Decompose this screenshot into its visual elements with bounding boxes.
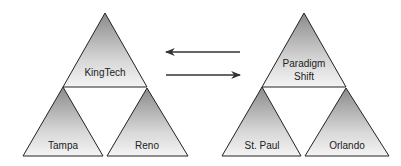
- root-domain-label-line1: Paradigm: [283, 58, 326, 69]
- child-domain-label: Tampa: [48, 140, 78, 151]
- child-domain-reno[interactable]: Reno: [107, 88, 188, 156]
- root-domain-kingtech[interactable]: KingTech: [63, 13, 147, 87]
- trust-diagram: KingTech Tampa Reno Paradigm Shift St. P…: [0, 0, 401, 166]
- child-domain-label: Reno: [135, 140, 159, 151]
- root-domain-label: KingTech: [84, 67, 125, 78]
- left-domain-tree: KingTech Tampa Reno: [23, 13, 188, 156]
- root-domain-label-line2: Shift: [294, 71, 314, 82]
- trust-arrows: [166, 52, 240, 75]
- child-domain-label: Orlando: [329, 140, 365, 151]
- root-domain-paradigm-shift[interactable]: Paradigm Shift: [262, 13, 346, 87]
- child-domain-label: St. Paul: [244, 140, 279, 151]
- diagram-canvas: KingTech Tampa Reno Paradigm Shift St. P…: [0, 0, 401, 166]
- child-domain-tampa[interactable]: Tampa: [23, 87, 103, 156]
- child-domain-orlando[interactable]: Orlando: [305, 88, 389, 156]
- right-domain-tree: Paradigm Shift St. Paul Orlando: [222, 13, 389, 156]
- child-domain-st-paul[interactable]: St. Paul: [222, 87, 301, 156]
